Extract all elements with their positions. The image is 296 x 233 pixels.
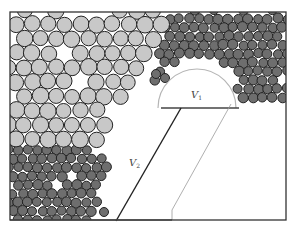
fine-particle — [179, 23, 189, 33]
coarse-particle — [56, 131, 72, 147]
fine-particle — [258, 93, 267, 102]
coarse-particle — [40, 73, 56, 89]
fine-particle — [189, 22, 199, 32]
coarse-particle — [0, 116, 16, 132]
fine-particle — [57, 206, 66, 215]
fine-particle — [92, 197, 101, 206]
fine-particle — [228, 39, 238, 49]
coarse-particle — [24, 103, 40, 119]
stray-particle — [152, 70, 161, 79]
fine-particle — [62, 180, 72, 190]
fine-particle — [47, 153, 57, 163]
coarse-particle — [41, 16, 56, 31]
fine-particle — [24, 180, 33, 189]
fine-particle — [76, 188, 86, 198]
coarse-particle — [121, 17, 136, 32]
fine-particle — [101, 162, 111, 172]
coarse-particle — [104, 16, 120, 32]
coarse-particle — [63, 31, 79, 47]
v2-light-boundary-line — [172, 104, 231, 220]
fine-particle — [248, 40, 257, 49]
fine-particle — [38, 207, 47, 216]
fine-particle — [218, 39, 228, 49]
coarse-particle — [8, 17, 24, 33]
fine-particle — [67, 189, 76, 198]
fine-particle — [42, 163, 51, 172]
fine-particle — [210, 23, 219, 32]
fine-particle — [274, 50, 283, 59]
fine-particle — [283, 66, 293, 76]
coarse-particle — [145, 3, 160, 18]
fine-particle — [4, 163, 14, 173]
fine-particle — [33, 180, 43, 190]
coarse-particle — [128, 31, 143, 46]
fine-particle — [32, 197, 41, 206]
fine-particle — [175, 32, 185, 42]
fine-particle — [239, 41, 248, 50]
fine-particle — [228, 22, 237, 31]
coarse-particle — [49, 59, 64, 74]
coarse-particle — [81, 59, 98, 76]
fine-particle — [82, 198, 91, 207]
fine-particle — [277, 22, 287, 32]
fine-particle — [42, 198, 51, 207]
fine-particle — [209, 5, 218, 14]
coarse-particle — [97, 31, 113, 47]
coarse-particle — [73, 16, 89, 32]
v2-dark-boundary-line — [116, 108, 181, 221]
coarse-particle — [33, 117, 49, 133]
fine-particle — [194, 49, 203, 58]
fine-particle — [53, 197, 62, 206]
fine-particle — [253, 66, 262, 75]
coarse-particle — [113, 31, 128, 46]
fine-particle — [77, 154, 86, 163]
fine-particle — [53, 163, 63, 173]
fine-particle — [174, 14, 183, 23]
coarse-particle — [33, 31, 48, 46]
fine-particle — [263, 67, 272, 76]
fine-particle — [62, 162, 72, 172]
coarse-particle — [113, 89, 128, 104]
coarse-particle — [90, 102, 105, 117]
fine-particle — [198, 23, 208, 33]
fine-particle — [233, 84, 242, 93]
coarse-particle — [16, 117, 31, 132]
fine-particle — [205, 50, 215, 60]
fine-particle — [195, 14, 204, 23]
v2-label: V2 — [129, 157, 140, 169]
fine-particle — [47, 172, 56, 181]
coarse-particle — [64, 118, 79, 133]
coarse-particle — [72, 131, 89, 148]
coarse-particle — [17, 30, 33, 46]
fine-particle — [27, 171, 36, 180]
fine-particle — [262, 49, 272, 59]
coarse-particle — [120, 75, 135, 90]
fine-particle — [171, 23, 180, 32]
fine-particle — [86, 206, 96, 216]
fine-particle — [272, 84, 281, 93]
fine-particle — [195, 33, 204, 42]
fine-particle — [14, 163, 23, 172]
fine-particle — [273, 13, 283, 23]
coarse-particle — [16, 60, 32, 76]
coarse-particle — [65, 90, 80, 105]
fine-particle — [91, 180, 100, 189]
coarse-particle — [56, 73, 72, 89]
fine-particle — [28, 207, 37, 216]
fine-particle — [283, 49, 293, 59]
coarse-particle — [1, 60, 16, 75]
fine-particle — [238, 93, 248, 103]
coarse-particle — [137, 16, 154, 33]
coarse-particle — [9, 45, 24, 60]
coarse-particle — [32, 87, 49, 104]
fine-particle — [185, 13, 195, 23]
fine-particle — [87, 171, 97, 181]
fine-particle — [248, 22, 258, 32]
fine-particle — [87, 188, 96, 197]
coarse-particle — [145, 31, 161, 47]
coarse-particle — [31, 59, 47, 75]
coarse-particle — [80, 88, 96, 104]
coarse-particle — [40, 131, 57, 148]
fine-particle — [170, 57, 179, 66]
fine-particle — [165, 31, 175, 41]
